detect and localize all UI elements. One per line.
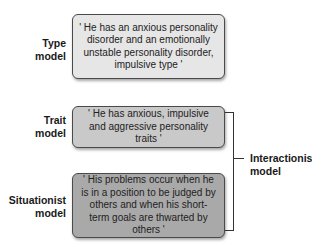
- situationist-model-box: ' His problems occur when he is in a pos…: [72, 173, 225, 238]
- bracket-vertical-line: [233, 112, 234, 231]
- bracket-bottom-line: [225, 230, 234, 231]
- trait-model-label: Trait model: [18, 114, 66, 140]
- type-model-label: Type model: [18, 37, 66, 63]
- bracket-tick-line: [234, 158, 244, 159]
- situationist-model-label: Situationist model: [0, 194, 66, 220]
- situationist-model-quote: ' His problems occur when he is in a pos…: [81, 174, 216, 237]
- interactionist-model-label: Interactionist model: [250, 152, 312, 178]
- trait-model-box: ' He has anxious, impulsive and aggressi…: [72, 106, 225, 148]
- type-model-quote: ' He has an anxious personality disorder…: [79, 22, 218, 72]
- trait-model-quote: ' He has anxious, impulsive and aggressi…: [83, 108, 214, 146]
- type-model-box: ' He has an anxious personality disorder…: [72, 14, 225, 79]
